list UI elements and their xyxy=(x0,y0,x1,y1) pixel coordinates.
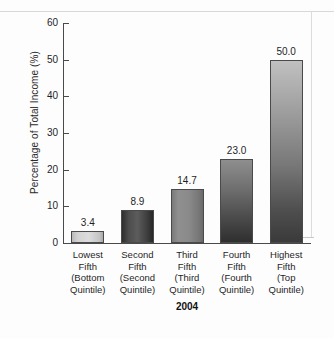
scan-artifact-line-right xyxy=(311,12,312,237)
x-category-label-line: (Fourth xyxy=(209,272,265,284)
bar-slot: 8.9 xyxy=(121,23,154,243)
y-tick-mark xyxy=(64,170,69,171)
plot-area: 0102030405060 3.48.914.723.050.0 xyxy=(63,23,311,243)
bar-value-label: 8.9 xyxy=(121,197,154,207)
bar-value-label: 50.0 xyxy=(270,47,303,57)
bar-slot: 3.4 xyxy=(71,23,104,243)
x-category-label-line: Quintile) xyxy=(110,284,166,296)
y-tick: 50 xyxy=(63,60,64,61)
y-tick: 30 xyxy=(63,133,64,134)
x-category-label-line: Third xyxy=(159,249,215,261)
x-category-label-line: Quintile) xyxy=(60,284,116,296)
x-category-label: FourthFifth(FourthQuintile) xyxy=(209,249,265,295)
y-tick-label: 60 xyxy=(47,18,58,28)
x-category-label-line: Fifth xyxy=(110,261,166,273)
bar-slot: 23.0 xyxy=(220,23,253,243)
y-tick: 40 xyxy=(63,96,64,97)
y-tick: 20 xyxy=(63,170,64,171)
bar[interactable] xyxy=(121,210,154,243)
y-tick: 60 xyxy=(63,23,64,24)
x-category-label: HighestFifth(TopQuintile) xyxy=(258,249,314,295)
x-category-label-line: Second xyxy=(110,249,166,261)
x-category-label-line: Highest xyxy=(258,249,314,261)
y-tick-label: 20 xyxy=(47,165,58,175)
bar[interactable] xyxy=(171,189,204,243)
x-category-label-line: Fifth xyxy=(60,261,116,273)
x-category-label-line: Fifth xyxy=(258,261,314,273)
y-axis-title: Percentage of Total Income (%) xyxy=(29,23,40,223)
x-category-label-line: (Bottom xyxy=(60,272,116,284)
y-tick-label: 0 xyxy=(52,238,58,248)
x-category-label-line: Quintile) xyxy=(258,284,314,296)
bar-value-label: 14.7 xyxy=(171,176,204,186)
x-category-label-line: Lowest xyxy=(60,249,116,261)
bar[interactable] xyxy=(71,231,104,243)
y-tick-label: 10 xyxy=(47,201,58,211)
chart-figure: Percentage of Total Income (%) 010203040… xyxy=(0,0,334,338)
x-category-label-line: (Second xyxy=(110,272,166,284)
x-axis-title: 2004 xyxy=(63,301,311,312)
x-category-label-line: Fourth xyxy=(209,249,265,261)
bar-slot: 50.0 xyxy=(270,23,303,243)
x-category-label-line: Fifth xyxy=(209,261,265,273)
x-category-label-line: Quintile) xyxy=(209,284,265,296)
y-tick-label: 40 xyxy=(47,91,58,101)
x-category-label-line: Fifth xyxy=(159,261,215,273)
x-category-label-line: (Third xyxy=(159,272,215,284)
y-tick-mark xyxy=(64,60,69,61)
y-tick: 0 xyxy=(63,243,64,244)
x-category-label: LowestFifth(BottomQuintile) xyxy=(60,249,116,295)
x-axis-line xyxy=(63,243,311,244)
bar[interactable] xyxy=(220,159,253,243)
bar-value-label: 23.0 xyxy=(220,146,253,156)
x-category-label: ThirdFifth(ThirdQuintile) xyxy=(159,249,215,295)
y-tick: 10 xyxy=(63,206,64,207)
y-tick-label: 30 xyxy=(47,128,58,138)
y-tick-mark xyxy=(64,206,69,207)
x-category-label-line: Quintile) xyxy=(159,284,215,296)
y-tick-label: 50 xyxy=(47,55,58,65)
y-tick-mark xyxy=(64,96,69,97)
x-category-label-line: (Top xyxy=(258,272,314,284)
bar-value-label: 3.4 xyxy=(71,218,104,228)
bar[interactable] xyxy=(270,60,303,243)
bar-slot: 14.7 xyxy=(171,23,204,243)
scan-artifact-line-top xyxy=(0,11,334,12)
x-category-label: SecondFifth(SecondQuintile) xyxy=(110,249,166,295)
y-tick-mark xyxy=(64,23,69,24)
y-tick-mark xyxy=(64,133,69,134)
y-tick-mark xyxy=(64,243,69,244)
